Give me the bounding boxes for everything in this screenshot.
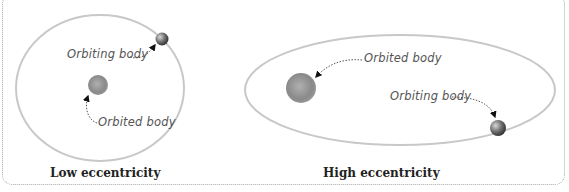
low-orbiting-body-icon (156, 33, 169, 46)
low-orbited-label: Orbited body (98, 115, 176, 129)
low-orbited-arrow (86, 96, 97, 123)
high-orbited-label: Orbited body (364, 51, 442, 65)
high-orbiting-label: Orbiting body (390, 89, 471, 103)
high-eccentricity-caption: High eccentricity (323, 166, 440, 180)
low-orbited-body-icon (88, 75, 108, 95)
low-eccentricity-diagram: Orbiting body Orbited body (16, 15, 184, 161)
high-orbiting-body-icon (490, 120, 506, 136)
high-orbited-body-icon (286, 73, 316, 103)
high-orbited-arrow (316, 60, 362, 77)
orbit-diagram: Orbiting body Orbited body Orbited body … (0, 0, 569, 192)
high-eccentricity-diagram: Orbited body Orbiting body (245, 35, 555, 145)
low-eccentricity-caption: Low eccentricity (50, 166, 160, 180)
low-orbiting-label: Orbiting body (67, 47, 148, 61)
